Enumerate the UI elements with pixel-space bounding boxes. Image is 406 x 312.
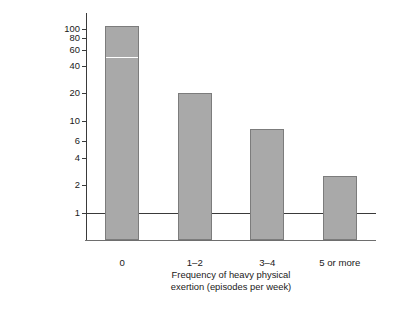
x-axis-baseline xyxy=(85,240,376,241)
y-tick-mark-4 xyxy=(82,158,87,159)
x-tick-label-3: 5 or more xyxy=(319,257,360,268)
bar-category-3 xyxy=(323,176,357,240)
x-tick-label-2: 3–4 xyxy=(259,257,275,268)
y-axis-line xyxy=(86,13,87,241)
chart-figure: Relative risk of onset of myocardial inf… xyxy=(0,0,406,312)
y-tick-mark-2 xyxy=(82,185,87,186)
bar-category-1 xyxy=(178,93,212,240)
x-tick-label-1: 1–2 xyxy=(187,257,203,268)
y-tick-mark-40 xyxy=(82,66,87,67)
y-tick-label-1: 1 xyxy=(75,208,80,217)
y-tick-mark-80 xyxy=(82,38,87,39)
y-tick-label-2: 2 xyxy=(75,181,80,190)
x-axis-title: Frequency of heavy physical exertion (ep… xyxy=(86,269,376,294)
x-axis-title-line-2: exertion (episodes per week) xyxy=(86,281,376,293)
y-tick-label-60: 60 xyxy=(70,45,80,54)
y-tick-mark-20 xyxy=(82,93,87,94)
x-axis-title-line-1: Frequency of heavy physical xyxy=(86,269,376,281)
y-tick-label-20: 20 xyxy=(70,89,80,98)
y-tick-mark-6 xyxy=(82,141,87,142)
x-tick-label-0: 0 xyxy=(120,257,125,268)
bar-category-2 xyxy=(250,129,284,240)
bar-category-0 xyxy=(105,26,139,240)
y-tick-mark-60 xyxy=(82,50,87,51)
y-tick-label-6: 6 xyxy=(75,137,80,146)
y-tick-mark-100 xyxy=(82,29,87,30)
y-tick-label-4: 4 xyxy=(75,153,80,162)
plot-area: 12461020406080100 0 1–2 3–4 5 or more xyxy=(86,13,376,241)
y-tick-mark-10 xyxy=(82,121,87,122)
bar-inner-divider xyxy=(106,57,138,58)
y-tick-label-100: 100 xyxy=(64,24,80,33)
y-tick-label-40: 40 xyxy=(70,61,80,70)
y-tick-label-80: 80 xyxy=(70,33,80,42)
y-tick-label-10: 10 xyxy=(70,116,80,125)
